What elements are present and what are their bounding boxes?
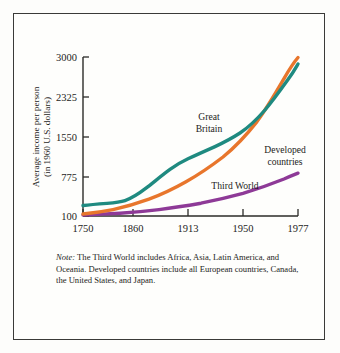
y-tick-label-1550: 1550 — [56, 132, 77, 143]
series-label-developed-countries: Developed countries — [264, 144, 306, 167]
series-label-great-britain-line2: Britain — [196, 123, 223, 134]
y-axis-ticks — [83, 57, 89, 216]
series-label-great-britain: Great Britain — [196, 111, 223, 134]
x-tick-label-1860: 1860 — [123, 223, 144, 234]
x-tick-label-1950: 1950 — [233, 223, 254, 234]
line-chart: 3000 2325 1550 775 100 1750 1860 1913 19… — [13, 13, 325, 340]
x-tick-label-1913: 1913 — [178, 223, 199, 234]
series-label-developed-line1: Developed — [264, 144, 306, 155]
series-label-third-world: Third World — [211, 180, 258, 191]
series-label-third-world-line1: Third World — [211, 180, 258, 191]
series-line-developed-countries — [83, 58, 298, 215]
y-tick-label-775: 775 — [61, 172, 77, 183]
y-tick-label-3000: 3000 — [56, 52, 77, 63]
figure-container: 3000 2325 1550 775 100 1750 1860 1913 19… — [0, 0, 340, 353]
y-axis-title-line2: (in 1960 U.S. dollars) — [42, 97, 52, 177]
series-label-great-britain-line1: Great — [198, 111, 220, 122]
note-text: The Third World includes Africa, Asia, L… — [56, 252, 298, 285]
series-label-developed-line2: countries — [267, 156, 302, 167]
y-axis-title: Average income per person (in 1960 U.S. … — [31, 86, 52, 187]
y-tick-label-2325: 2325 — [56, 92, 77, 103]
x-tick-label-1750: 1750 — [73, 223, 94, 234]
note-label: Note: — [56, 252, 75, 262]
x-tick-label-1977: 1977 — [288, 223, 309, 234]
y-tick-label-100: 100 — [61, 211, 77, 222]
chart-note: Note: The Third World includes Africa, A… — [56, 252, 304, 287]
y-axis-title-line1: Average income per person — [31, 86, 41, 187]
